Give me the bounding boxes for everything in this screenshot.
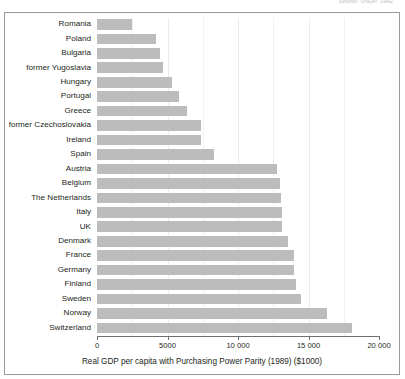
bar-row: France xyxy=(97,249,379,263)
bar xyxy=(97,294,301,305)
x-tick-label: 20 000 xyxy=(367,341,390,350)
category-label: Finland xyxy=(64,278,91,290)
bar xyxy=(97,48,160,59)
bar xyxy=(97,91,179,102)
category-label: Denmark xyxy=(58,235,91,247)
x-tick-label: 0 xyxy=(95,341,99,350)
bar xyxy=(97,149,214,160)
bar xyxy=(97,77,172,88)
plot-area: RomaniaPolandBulgariaformer YugoslaviaHu… xyxy=(97,18,379,336)
category-label: Bulgaria xyxy=(61,47,91,59)
bar-row: Germany xyxy=(97,264,379,278)
category-label: Norway xyxy=(64,307,91,319)
category-label: Greece xyxy=(64,105,91,117)
x-tick-label: 5000 xyxy=(159,341,176,350)
bar xyxy=(97,135,201,146)
category-label: Germany xyxy=(58,264,91,276)
x-tick-label: 10 000 xyxy=(226,341,249,350)
bar xyxy=(97,164,277,175)
x-axis-ticks: 0500010 00015 00020 000 xyxy=(97,337,380,351)
bar-row: Finland xyxy=(97,278,379,292)
category-label: Austria xyxy=(66,163,91,175)
bar-row: Spain xyxy=(97,148,379,162)
bar xyxy=(97,308,327,319)
bar-row: Switzerland xyxy=(97,322,379,336)
category-label: former Yugoslavia xyxy=(26,62,91,74)
bar-series: RomaniaPolandBulgariaformer YugoslaviaHu… xyxy=(97,18,379,336)
bar-row: Denmark xyxy=(97,235,379,249)
category-label: Portugal xyxy=(61,90,91,102)
bar xyxy=(97,250,294,261)
bar xyxy=(97,193,281,204)
bar xyxy=(97,279,296,290)
bar xyxy=(97,236,288,247)
bar-row: former Yugoslavia xyxy=(97,61,379,75)
bar-row: former Czechoslovakia xyxy=(97,119,379,133)
category-label: Poland xyxy=(66,33,91,45)
bar-row: Austria xyxy=(97,163,379,177)
x-tick xyxy=(309,337,310,340)
bar xyxy=(97,34,156,45)
category-label: former Czechoslovakia xyxy=(9,119,91,131)
bar-row: UK xyxy=(97,220,379,234)
x-tick xyxy=(168,337,169,340)
bar-row: Portugal xyxy=(97,90,379,104)
category-label: Switzerland xyxy=(49,322,91,334)
category-label: UK xyxy=(80,221,91,233)
bar-row: Hungary xyxy=(97,76,379,90)
x-tick-label: 15 000 xyxy=(297,341,320,350)
category-label: Ireland xyxy=(66,134,91,146)
bar-row: Belgium xyxy=(97,177,379,191)
bar xyxy=(97,207,282,218)
bar xyxy=(97,221,282,232)
bar-row: Sweden xyxy=(97,293,379,307)
bar-row: Poland xyxy=(97,32,379,46)
x-tick xyxy=(379,337,380,340)
bar xyxy=(97,178,280,189)
category-label: Spain xyxy=(70,148,91,160)
bar-row: Bulgaria xyxy=(97,47,379,61)
category-label: Romania xyxy=(59,18,91,30)
bar xyxy=(97,323,352,334)
source-note: Source: UNDP, 1992 xyxy=(339,0,393,5)
bar-row: Norway xyxy=(97,307,379,321)
bar xyxy=(97,120,201,131)
x-tick xyxy=(238,337,239,340)
bar-row: The Netherlands xyxy=(97,191,379,205)
bar-row: Greece xyxy=(97,105,379,119)
x-axis-title: Real GDP per capita with Purchasing Powe… xyxy=(5,357,399,366)
bar-row: Italy xyxy=(97,206,379,220)
bar-row: Romania xyxy=(97,18,379,32)
chart-plot-container: RomaniaPolandBulgariaformer YugoslaviaHu… xyxy=(5,13,399,374)
category-label: Sweden xyxy=(62,293,91,305)
bar-row: Ireland xyxy=(97,134,379,148)
bar xyxy=(97,106,187,117)
x-tick xyxy=(97,337,98,340)
category-label: France xyxy=(66,249,91,261)
category-label: Italy xyxy=(76,206,91,218)
category-label: The Netherlands xyxy=(31,192,91,204)
category-label: Belgium xyxy=(62,177,91,189)
chart-frame: RomaniaPolandBulgariaformer YugoslaviaHu… xyxy=(4,12,400,375)
category-label: Hungary xyxy=(60,76,91,88)
bar xyxy=(97,62,163,73)
bar xyxy=(97,19,132,30)
bar xyxy=(97,265,294,276)
